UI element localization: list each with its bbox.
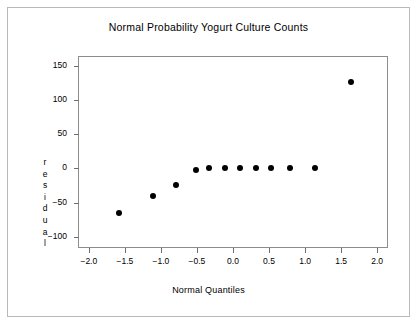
- data-point: [287, 165, 293, 171]
- x-tick-label: 0.0: [227, 256, 239, 266]
- y-tick-label: 150: [53, 60, 67, 70]
- x-tick-label: 0.5: [263, 256, 275, 266]
- data-point: [222, 165, 228, 171]
- y-tick: [74, 66, 79, 67]
- chart-title: Normal Probability Yogurt Culture Counts: [0, 21, 417, 33]
- data-point: [116, 210, 122, 216]
- y-tick: [74, 134, 79, 135]
- y-axis-group: residual −100−50050100150: [0, 56, 76, 248]
- y-axis-label-char: i: [38, 192, 52, 204]
- y-tick-label: −50: [53, 197, 67, 207]
- x-tick: [269, 248, 270, 253]
- data-point: [237, 165, 243, 171]
- data-point: [193, 167, 199, 173]
- data-point: [312, 165, 318, 171]
- x-tick-label: 1.0: [299, 256, 311, 266]
- x-axis-label: Normal Quantiles: [0, 285, 417, 295]
- x-tick: [197, 248, 198, 253]
- data-point: [173, 182, 179, 188]
- data-point: [348, 79, 354, 85]
- y-axis-label-char: r: [38, 157, 52, 169]
- y-tick: [74, 168, 79, 169]
- y-axis-label-char: u: [38, 215, 52, 227]
- y-tick: [74, 100, 79, 101]
- y-tick-label: −100: [48, 231, 67, 241]
- y-tick: [74, 237, 79, 238]
- y-tick-label: 50: [58, 128, 67, 138]
- x-tick-label: −0.5: [189, 256, 206, 266]
- x-tick-label: −1.5: [116, 256, 133, 266]
- y-axis-label-char: e: [38, 169, 52, 181]
- x-tick-label: −2.0: [80, 256, 97, 266]
- x-tick: [89, 248, 90, 253]
- y-tick-label: 0: [62, 162, 67, 172]
- plot-area: [78, 56, 388, 248]
- y-axis-label-char: d: [38, 203, 52, 215]
- y-axis-label-char: s: [38, 180, 52, 192]
- x-tick: [233, 248, 234, 253]
- data-point: [253, 165, 259, 171]
- x-tick-label: −1.0: [153, 256, 170, 266]
- x-tick: [125, 248, 126, 253]
- data-point: [206, 165, 212, 171]
- y-tick: [74, 203, 79, 204]
- y-tick-label: 100: [53, 94, 67, 104]
- chart-figure: Normal Probability Yogurt Culture Counts…: [0, 0, 417, 324]
- x-tick: [377, 248, 378, 253]
- x-tick-label: 2.0: [371, 256, 383, 266]
- x-tick-label: 1.5: [335, 256, 347, 266]
- x-tick: [161, 248, 162, 253]
- data-point: [268, 165, 274, 171]
- x-tick: [341, 248, 342, 253]
- data-point: [150, 193, 156, 199]
- x-axis-group: −2.0−1.5−1.0−0.50.00.51.01.52.0: [78, 248, 388, 270]
- x-tick: [305, 248, 306, 253]
